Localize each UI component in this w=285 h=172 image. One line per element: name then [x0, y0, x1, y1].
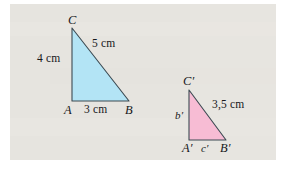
side-length-label-hypotenuse-a-prime-b-prime-c-prime: 3,5 cm	[212, 99, 245, 111]
side-label-b-prime: b′	[175, 110, 183, 121]
vertex-label-C: C	[68, 14, 77, 27]
side-label-c-prime: c′	[201, 143, 209, 154]
paper-grain	[10, 4, 276, 160]
vertex-label-B-prime: B′	[220, 142, 231, 155]
vertex-label-B: B	[125, 104, 133, 117]
geometry-figure: C A B 5 cm 4 cm 3 cm C′ A′ B′ b′ c′ 3,5 …	[0, 0, 285, 172]
vertex-label-A-prime: A′	[182, 142, 193, 155]
side-length-label-vertical-abc: 4 cm	[37, 53, 60, 65]
vertex-label-A: A	[64, 104, 72, 117]
side-length-label-base-abc: 3 cm	[84, 104, 107, 116]
side-length-label-hypotenuse-abc: 5 cm	[92, 38, 115, 50]
figure-canvas	[0, 0, 285, 172]
vertex-label-C-prime: C′	[183, 75, 194, 88]
